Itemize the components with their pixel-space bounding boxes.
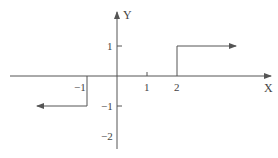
x-tick-label-neg1: −1 — [74, 81, 86, 93]
step-function-diagram: Y X −1 1 2 1 −1 −2 — [0, 0, 278, 158]
y-tick-label-neg2: −2 — [101, 130, 113, 142]
y-tick-label-neg1: −1 — [101, 100, 113, 112]
upper-step-segment — [177, 46, 236, 76]
x-tick-label-1: 1 — [144, 81, 150, 93]
x-axis-label: X — [264, 81, 273, 95]
x-tick-label-2: 2 — [174, 81, 180, 93]
y-tick-label-1: 1 — [107, 40, 113, 52]
y-axis-label: Y — [123, 8, 132, 22]
